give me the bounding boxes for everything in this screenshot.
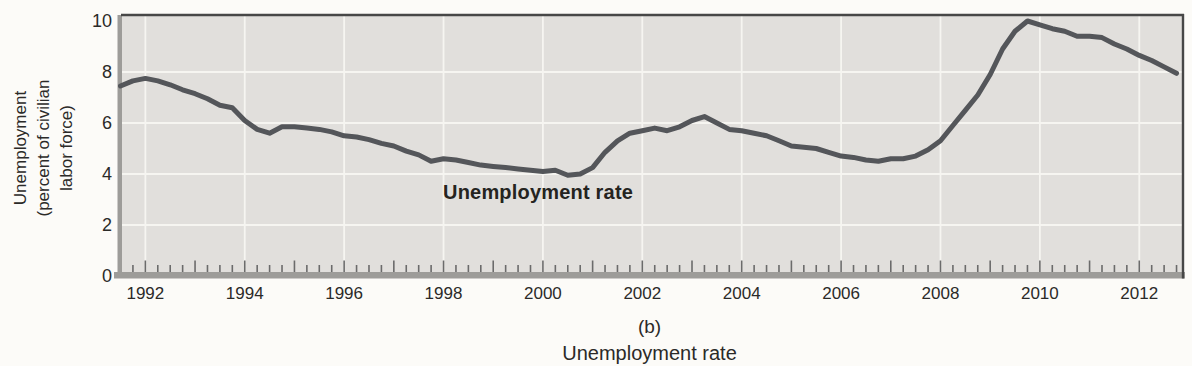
y-tick-label: 0 — [70, 267, 112, 285]
x-tick-label: 1998 — [425, 284, 463, 304]
caption-letter: (b) — [114, 315, 1185, 339]
x-tick-label: 2006 — [822, 284, 860, 304]
x-tick-label: 1992 — [126, 284, 164, 304]
plot-background — [122, 15, 1183, 272]
caption-title: Unemployment rate — [114, 341, 1185, 365]
y-axis-title-line: Unemployment — [9, 48, 32, 248]
plot-area — [114, 12, 1185, 280]
y-axis-title: Unemployment (percent of civilian labor … — [9, 48, 78, 248]
x-tick-label: 2008 — [922, 284, 960, 304]
y-tick-label: 8 — [70, 63, 112, 81]
x-tick-label: 2010 — [1021, 284, 1059, 304]
y-axis-title-line: (percent of civilian — [32, 48, 55, 248]
y-tick-label: 4 — [70, 165, 112, 183]
y-tick-label: 2 — [70, 216, 112, 234]
y-tick-label: 10 — [70, 12, 112, 30]
series-label: Unemployment rate — [443, 181, 633, 204]
unemployment-rate-figure: Unemployment (percent of civilian labor … — [0, 0, 1192, 366]
x-tick-label: 2002 — [623, 284, 661, 304]
x-tick-label: 2012 — [1120, 284, 1158, 304]
y-tick-label: 6 — [70, 114, 112, 132]
x-tick-label: 1994 — [226, 284, 264, 304]
x-tick-label: 2004 — [723, 284, 761, 304]
y-axis-band — [118, 15, 123, 272]
caption: (b) Unemployment rate — [114, 315, 1185, 365]
x-tick-label: 1996 — [325, 284, 363, 304]
x-tick-label: 2000 — [524, 284, 562, 304]
x-axis-band — [114, 272, 1185, 279]
